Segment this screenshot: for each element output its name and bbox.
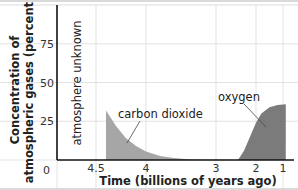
x-tick-label: 1 (280, 162, 287, 175)
chart-frame: 02550754.54321 Concentration of atmosphe… (0, 0, 298, 190)
carbon-dioxide-leader-line (127, 121, 140, 143)
x-axis-label: Time (billions of years ago) (99, 174, 276, 188)
series-label-oxygen: oxygen (218, 90, 260, 104)
y-tick-label: 25 (40, 115, 54, 128)
y-axis-label-line2: atmospheric gases (percent) (22, 2, 36, 183)
annotation-atmosphere-unknown: atmosphere unknown (70, 21, 84, 146)
chart: 02550754.54321 Concentration of atmosphe… (0, 2, 298, 190)
y-tick-label: 75 (40, 38, 54, 51)
y-axis-label-line1: Concentration of (8, 35, 22, 145)
y-tick-label: 50 (40, 77, 54, 90)
area-oxygen (238, 104, 286, 160)
y-tick-label: 0 (43, 164, 50, 177)
series-label-carbon-dioxide: carbon dioxide (118, 107, 203, 121)
